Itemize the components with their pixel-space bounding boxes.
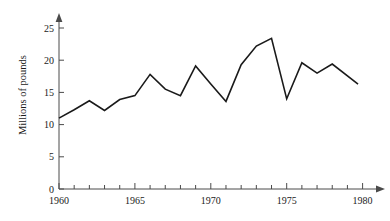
y-tick-label-10: 10 (44, 119, 54, 130)
y-tick-label-0: 0 (49, 184, 54, 195)
x-axis-tick-labels: 19601965197019751980 (49, 195, 373, 206)
x-tick-label-1960: 1960 (49, 195, 69, 206)
x-axis-arrow-icon (376, 186, 385, 193)
chart-page: Millions of pounds 0 5 10 15 20 25 19601… (0, 0, 390, 221)
x-tick-label-1965: 1965 (125, 195, 145, 206)
y-tick-label-15: 15 (44, 87, 54, 98)
line-chart: Millions of pounds 0 5 10 15 20 25 19601… (0, 0, 390, 221)
x-tick-label-1980: 1980 (353, 195, 373, 206)
y-tick-label-5: 5 (49, 151, 54, 162)
y-axis-tick-labels: 0 5 10 15 20 25 (44, 23, 54, 195)
y-tick-label-20: 20 (44, 55, 54, 66)
x-axis-ticks (59, 183, 363, 189)
x-tick-label-1970: 1970 (201, 195, 221, 206)
y-axis-ticks (59, 28, 64, 189)
y-axis-title: Millions of pounds (17, 55, 28, 135)
data-series-line (59, 38, 358, 118)
y-axis-arrow-icon (56, 13, 63, 22)
x-tick-label-1975: 1975 (277, 195, 297, 206)
y-tick-label-25: 25 (44, 23, 54, 34)
